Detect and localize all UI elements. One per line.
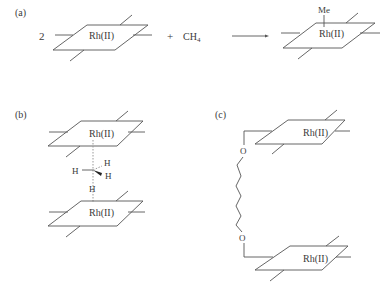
reaction-arrow [232, 35, 269, 38]
rh-label-bottom: Rh(II) [303, 253, 328, 265]
hydrogen-lower-right: H [105, 171, 112, 181]
methane-molecule: H H H H [72, 158, 112, 194]
wedge-bond [93, 170, 102, 176]
rh-porphyrin-bottom: Rh(II) [255, 236, 351, 281]
methane-formula: CH4 [183, 31, 201, 44]
chemistry-diagram: (a) 2 Rh(II) + CH4 Me Rh(II) (b [0, 0, 382, 289]
rh-porphyrin-top: Rh(II) [48, 111, 145, 157]
oxygen-top: O [240, 146, 247, 156]
porphyrin-plane [255, 120, 345, 144]
panel-a-label: (a) [15, 7, 26, 19]
rh-label-top: Rh(II) [89, 128, 114, 140]
hydrogen-upper-right: H [104, 158, 111, 168]
panel-b-label: (b) [15, 109, 27, 121]
hydrogen-bottom: H [89, 184, 96, 194]
tether-chain: O O [236, 131, 273, 257]
rh-label: Rh(II) [89, 30, 114, 42]
panel-c: (c) Rh(II) O O Rh(II) [215, 109, 351, 281]
rh-porphyrin-bottom: Rh(II) [48, 191, 145, 237]
panel-a: (a) 2 Rh(II) + CH4 Me Rh(II) [15, 5, 380, 61]
rh-label-bottom: Rh(II) [89, 207, 114, 219]
porphyrin-plane [255, 246, 348, 270]
rh-label: Rh(II) [319, 28, 344, 40]
rh-label-top: Rh(II) [303, 127, 328, 139]
hydrogen-left: H [72, 166, 79, 176]
panel-c-label: (c) [215, 109, 226, 121]
plus-sign: + [167, 30, 173, 42]
panel-b: (b) Rh(II) H H H H Rh(II) [15, 109, 145, 237]
oxygen-bottom: O [239, 233, 246, 243]
rh-porphyrin-reactant: Rh(II) [53, 15, 152, 61]
alkyl-chain [236, 157, 243, 232]
rh-porphyrin-product: Me Rh(II) [281, 5, 380, 59]
methyl-ligand: Me [318, 5, 330, 15]
stoichiometric-coefficient: 2 [39, 30, 45, 42]
rh-porphyrin-top: Rh(II) [255, 110, 350, 154]
